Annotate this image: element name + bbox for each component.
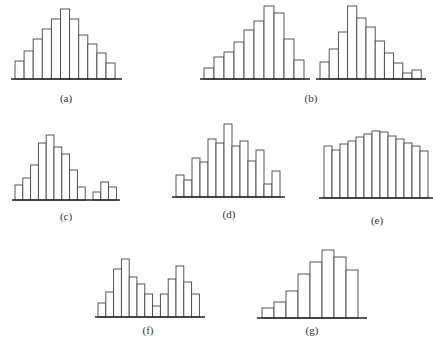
histogram-bar (145, 294, 153, 317)
histogram-bar (348, 6, 357, 79)
histogram-bar (254, 21, 264, 79)
histogram-bar (340, 144, 348, 198)
histogram-bar (168, 279, 176, 317)
histogram-bar (42, 29, 51, 79)
histogram-bar (240, 141, 248, 197)
histogram-bar (274, 302, 286, 318)
histogram-bar (320, 62, 329, 79)
histogram-bar (24, 51, 33, 79)
histogram-bar (403, 73, 412, 79)
panel-label-g: (g) (306, 324, 319, 336)
histogram-bar (129, 277, 137, 317)
histogram-bar (224, 52, 234, 79)
histogram-bar (31, 165, 39, 200)
histogram-bar (234, 42, 244, 79)
histogram-bar (396, 139, 404, 198)
histogram-bar (264, 184, 272, 197)
histogram-bar (332, 150, 340, 198)
histogram-bar (204, 68, 214, 79)
histogram-bar (61, 9, 70, 79)
histogram-bar (274, 13, 284, 79)
histogram-bar (334, 257, 346, 318)
histogram-bar (23, 178, 31, 200)
histogram-bar (394, 63, 403, 79)
histogram-bar (310, 262, 322, 318)
histogram-bar (214, 57, 224, 79)
histogram-bar (106, 63, 115, 79)
histogram-bar (298, 274, 310, 318)
histogram-bar (420, 151, 428, 198)
panel-label-e: (e) (371, 214, 383, 226)
histogram-bar (15, 61, 24, 79)
histogram-bar (192, 294, 200, 317)
histogram-bar (364, 134, 372, 198)
histogram-bar (184, 282, 192, 317)
histogram-bar (232, 146, 240, 197)
histogram-bar (176, 175, 184, 197)
histogram-bar (357, 18, 366, 79)
histogram-d (172, 124, 285, 197)
histogram-bar (15, 185, 23, 200)
histogram-bar (93, 192, 101, 200)
panel-label-a: (a) (60, 92, 72, 104)
histogram-bar (412, 70, 421, 79)
histogram-bar (262, 308, 274, 318)
histogram-bar (412, 146, 420, 198)
histogram-bar (338, 32, 347, 79)
histogram-bar (33, 39, 42, 79)
histogram-bar (322, 250, 334, 318)
histogram-bar (109, 187, 117, 200)
histogram-bar (286, 291, 298, 318)
histogram-figure (0, 0, 433, 350)
histogram-bar (160, 294, 168, 317)
histogram-bar (97, 53, 106, 79)
panel-label-f: (f) (143, 324, 154, 336)
histogram-bar (101, 182, 109, 200)
histogram-bar (137, 284, 145, 317)
histogram-bar (54, 147, 62, 200)
histogram-bar (244, 30, 254, 79)
histogram-bar (224, 124, 232, 197)
histogram-a (11, 9, 122, 79)
histogram-bar (70, 19, 79, 79)
histogram-bar (384, 53, 393, 79)
histogram-bar (106, 292, 114, 317)
histogram-bar (88, 44, 97, 79)
histogram-bar (264, 6, 274, 79)
histogram-bar (121, 259, 129, 317)
histogram-bar (372, 131, 380, 198)
histogram-bar (375, 41, 384, 79)
histogram-bar (46, 135, 54, 200)
panel-label-b: (b) (305, 92, 318, 104)
histogram-bar (216, 143, 224, 197)
histogram-f (95, 259, 205, 317)
histogram-bar (248, 161, 256, 197)
histogram-b-left (200, 6, 310, 79)
histogram-bar (366, 27, 375, 79)
histogram-bar (329, 49, 338, 79)
histogram-bar (192, 158, 200, 197)
histogram-bar (98, 303, 106, 317)
histogram-bar (294, 60, 304, 79)
histogram-bar (114, 269, 122, 317)
histogram-bar (77, 187, 85, 200)
histogram-bar (284, 39, 294, 79)
histogram-bar (184, 180, 192, 197)
histogram-bar (200, 162, 208, 197)
histogram-bar (38, 143, 46, 200)
histogram-bar (404, 143, 412, 198)
histogram-bar (380, 132, 388, 198)
histogram-bar (348, 141, 356, 198)
histogram-bar (153, 306, 161, 317)
histogram-g (257, 250, 367, 318)
panel-label-c: (c) (60, 210, 72, 222)
histogram-bar (356, 137, 364, 198)
histogram-bar (346, 270, 358, 318)
histogram-c (12, 135, 120, 200)
histogram-bar (70, 170, 78, 200)
histogram-bar (324, 146, 332, 198)
histogram-e (319, 131, 433, 198)
histogram-bar (272, 171, 280, 197)
histogram-bar (62, 154, 70, 200)
histogram-b-right (316, 6, 426, 79)
